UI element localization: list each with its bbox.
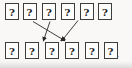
bottom-box-2-glyph: ?	[29, 46, 35, 56]
top-box-2: ?	[23, 3, 37, 20]
top-box-3: ?	[42, 3, 56, 20]
bottom-box-6-glyph: ?	[108, 46, 114, 56]
top-box-1-glyph: ?	[9, 7, 15, 17]
arrow-top-box2-to-bottom-box4	[33, 22, 65, 41]
bottom-box-3: ?	[45, 42, 59, 59]
arrow-top-box3-to-bottom-box3	[44, 22, 51, 41]
comma-mark: ,	[117, 50, 120, 59]
top-box-3-glyph: ?	[46, 7, 52, 17]
bottom-box-5-glyph: ?	[89, 46, 95, 56]
bottom-box-1-glyph: ?	[9, 46, 15, 56]
bottom-box-5: ?	[85, 42, 99, 59]
top-box-2-glyph: ?	[27, 7, 33, 17]
top-box-6: ?	[98, 3, 112, 20]
bottom-box-3-glyph: ?	[49, 46, 55, 56]
bottom-box-4-glyph: ?	[69, 46, 75, 56]
top-box-5: ?	[80, 3, 94, 20]
bottom-box-1: ?	[5, 42, 19, 59]
bottom-box-4: ?	[65, 42, 79, 59]
top-box-6-glyph: ?	[102, 7, 108, 17]
arrow-top-box5-to-bottom-box4	[62, 21, 78, 41]
scan-shadow	[0, 61, 132, 68]
top-box-4: ?	[61, 3, 75, 20]
top-box-5-glyph: ?	[84, 7, 90, 17]
top-box-1: ?	[5, 3, 19, 20]
bottom-box-6: ?	[104, 42, 118, 59]
top-box-4-glyph: ?	[65, 7, 71, 17]
bottom-box-2: ?	[25, 42, 39, 59]
question-boxes-diagram: ?????? ?????? ,	[0, 0, 132, 68]
